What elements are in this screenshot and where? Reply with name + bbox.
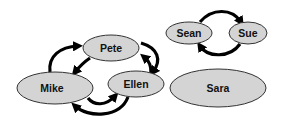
social-network-diagram: Pete Mike Ellen Sean Sue Sara [0, 0, 286, 126]
edge-mike-to-ellen [88, 96, 115, 104]
node-label: Ellen [123, 78, 148, 90]
edge-sue-to-sean [200, 44, 240, 55]
edge-pete-to-mike [75, 58, 90, 72]
node-ellen: Ellen [108, 71, 164, 97]
edge-ellen-to-mike [75, 97, 128, 114]
node-label: Pete [100, 42, 122, 54]
edge-sean-to-sue [200, 12, 241, 23]
edge-ellen-to-pete [144, 57, 151, 73]
node-label: Sara [207, 82, 230, 94]
node-label: Sue [238, 27, 257, 39]
node-sean: Sean [166, 22, 212, 44]
node-mike: Mike [17, 72, 93, 104]
node-sue: Sue [229, 22, 267, 44]
node-label: Mike [40, 82, 64, 94]
node-pete: Pete [83, 35, 139, 61]
node-sara: Sara [170, 69, 266, 107]
edge-mike-to-pete [50, 46, 78, 72]
node-label: Sean [176, 27, 201, 39]
